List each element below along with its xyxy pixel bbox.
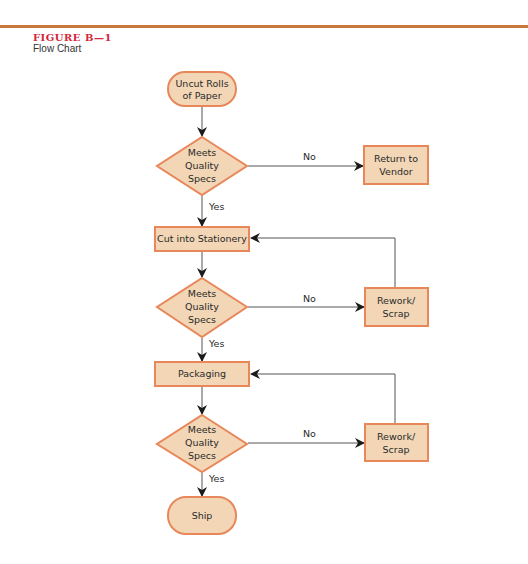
edge-label-yes-3: Yes	[208, 473, 224, 484]
edge-label-no-2: No	[303, 293, 316, 304]
node-decision1: Meets Quality Specs	[157, 137, 247, 195]
node-decision2-line2: Quality	[185, 301, 219, 312]
node-rework2: Rework/ Scrap	[365, 424, 428, 461]
node-start: Uncut Rolls of Paper	[168, 72, 236, 106]
node-decision2-line1: Meets	[188, 288, 217, 299]
node-return-vendor-line2: Vendor	[379, 166, 412, 177]
node-decision2-line3: Specs	[188, 314, 216, 325]
node-rework1-line1: Rework/	[377, 295, 416, 306]
node-cut-label: Cut into Stationery	[157, 233, 247, 244]
node-rework1-line2: Scrap	[382, 308, 409, 319]
node-packaging: Packaging	[155, 362, 249, 386]
edge-rework2-to-packaging	[251, 374, 395, 424]
edge-label-yes-2: Yes	[208, 338, 224, 349]
node-return-vendor: Return to Vendor	[364, 146, 428, 184]
node-start-line1: Uncut Rolls	[175, 78, 228, 89]
edge-label-yes-1: Yes	[208, 201, 224, 212]
node-rework1: Rework/ Scrap	[365, 288, 428, 326]
node-decision1-line1: Meets	[188, 147, 217, 158]
node-rework2-line1: Rework/	[377, 431, 416, 442]
flowchart: No Yes No Yes No Yes Uncut Rolls of Pape…	[0, 0, 528, 564]
node-ship: Ship	[168, 497, 236, 534]
edge-label-no-1: No	[303, 151, 316, 162]
node-ship-label: Ship	[192, 510, 213, 521]
node-return-vendor-line1: Return to	[374, 153, 418, 164]
node-decision3-line3: Specs	[188, 450, 216, 461]
node-decision3-line1: Meets	[188, 424, 217, 435]
node-decision3-line2: Quality	[185, 437, 219, 448]
edge-label-no-3: No	[303, 428, 316, 439]
edge-rework1-to-cut	[251, 238, 395, 288]
node-decision3: Meets Quality Specs	[157, 415, 247, 472]
node-packaging-label: Packaging	[178, 368, 226, 379]
node-cut: Cut into Stationery	[155, 227, 249, 251]
node-rework2-line2: Scrap	[382, 444, 409, 455]
node-decision2: Meets Quality Specs	[157, 278, 247, 337]
node-decision1-line3: Specs	[188, 173, 216, 184]
node-start-line2: of Paper	[182, 90, 221, 101]
node-decision1-line2: Quality	[185, 160, 219, 171]
